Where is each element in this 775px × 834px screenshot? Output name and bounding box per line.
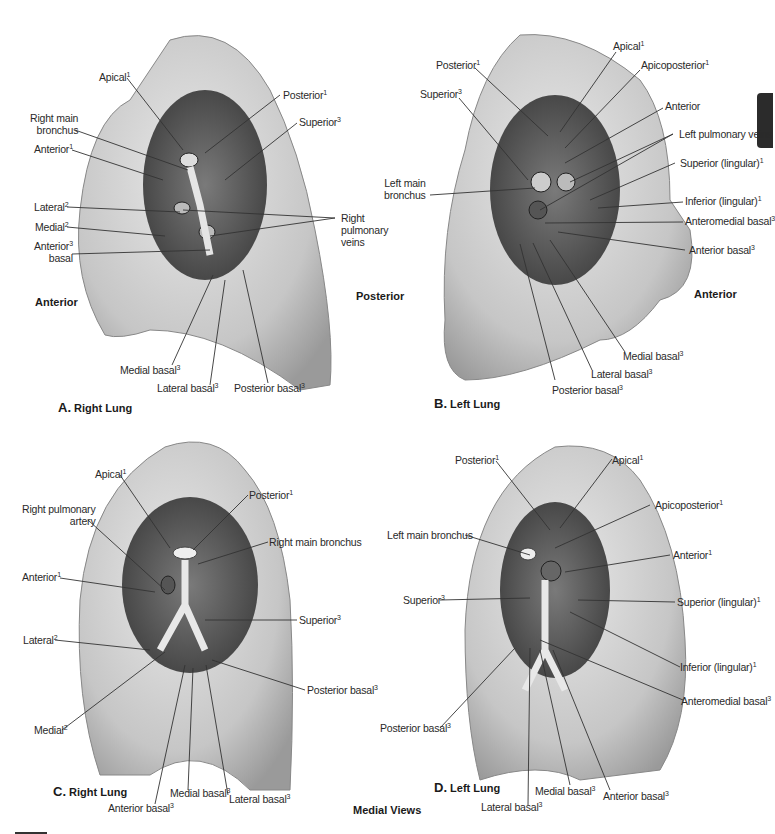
label-b-left-pulmonary-veins: Left pulmonary veins <box>679 128 772 140</box>
side-label-posterior-b: Posterior <box>356 290 404 302</box>
left-lung-d-drawing <box>465 446 686 780</box>
label-b-superior-lingular: Superior (lingular)1 <box>680 157 763 169</box>
label-d-posterior-basal: Posterior basal3 <box>380 722 451 734</box>
label-c-right-main-bronchus: Right main bronchus <box>269 536 362 548</box>
label-a-superior: Superior3 <box>299 116 341 128</box>
label-a-posterior: Posterior1 <box>283 89 327 101</box>
label-b-posterior-basal: Posterior basal3 <box>552 384 623 396</box>
label-b-anterior: Anterior <box>665 100 700 112</box>
side-label-anterior-a: Anterior <box>35 296 78 308</box>
label-d-anterior: Anterior1 <box>673 549 712 561</box>
label-c-anterior-basal: Anterior basal3 <box>108 802 174 814</box>
label-d-left-main-bronchus: Left main bronchus <box>387 529 473 541</box>
label-b-posterior: Posterior1 <box>436 59 480 71</box>
label-c-right-pulmonary-artery: Right pulmonaryartery <box>22 503 95 527</box>
panel-b-caption: B. Left Lung <box>434 396 500 411</box>
label-c-medial-basal: Medial basal3 <box>170 787 230 799</box>
label-d-lateral-basal: Lateral basal3 <box>481 801 542 813</box>
label-a-anterior: Anterior1 <box>34 143 73 155</box>
label-a-apical: Apical1 <box>99 71 130 83</box>
label-d-superior-lingular: Superior (lingular)1 <box>677 596 760 608</box>
left-lung-b-drawing <box>444 35 692 380</box>
label-c-superior: Superior3 <box>299 614 341 626</box>
side-label-anterior-b: Anterior <box>694 288 737 300</box>
label-b-apical: Apical1 <box>613 40 644 52</box>
label-d-anteromedial-basal: Anteromedial basal3 <box>681 695 771 707</box>
label-d-inferior-lingular: Inferior (lingular)1 <box>680 661 756 673</box>
label-b-medial-basal: Medial basal3 <box>623 350 683 362</box>
label-a-right-main-bronchus: Right mainbronchus <box>30 112 78 136</box>
panel-c-caption: C. Right Lung <box>53 784 127 799</box>
label-b-lateral-basal: Lateral basal3 <box>591 368 652 380</box>
label-c-medial: Medial2 <box>34 724 67 736</box>
label-d-medial-basal: Medial basal3 <box>535 785 595 797</box>
label-a-lateral-basal: Lateral basal3 <box>157 382 218 394</box>
label-c-anterior: Anterior1 <box>22 571 61 583</box>
label-b-anterior-basal: Anterior basal3 <box>689 244 755 256</box>
label-b-superior: Superior3 <box>420 88 462 100</box>
label-c-lateral-basal: Lateral basal3 <box>229 793 290 805</box>
label-c-apical: Apical1 <box>95 468 126 480</box>
label-b-anteromedial-basal: Anteromedial basal3 <box>685 215 775 227</box>
label-b-inferior-lingular: Inferior (lingular)1 <box>685 195 761 207</box>
label-a-anterior-basal: Anterior3basal <box>34 240 73 264</box>
label-c-posterior-basal: Posterior basal3 <box>307 684 378 696</box>
label-a-medial-basal: Medial basal3 <box>120 364 180 376</box>
label-d-apical: Apical1 <box>612 454 643 466</box>
label-d-posterior: Posterior1 <box>455 454 499 466</box>
label-c-lateral: Lateral2 <box>23 634 57 646</box>
label-b-left-main-bronchus: Left mainbronchus <box>384 177 426 201</box>
medial-views-caption: Medial Views <box>353 804 421 816</box>
label-b-apicoposterior: Apicoposterior1 <box>641 59 709 71</box>
label-d-superior: Superior3 <box>403 594 445 606</box>
label-a-posterior-basal: Posterior basal3 <box>234 382 305 394</box>
panel-a-caption: A. Right Lung <box>58 400 132 415</box>
label-c-posterior: Posterior1 <box>249 489 293 501</box>
panel-d-caption: D. Left Lung <box>434 780 500 795</box>
label-a-lateral: Lateral2 <box>34 201 68 213</box>
label-a-medial: Medial2 <box>35 221 68 233</box>
label-a-right-pulmonary-veins: Rightpulmonaryveins <box>341 212 388 248</box>
label-d-anterior-basal: Anterior basal3 <box>603 790 669 802</box>
label-d-apicoposterior: Apicoposterior1 <box>655 499 723 511</box>
